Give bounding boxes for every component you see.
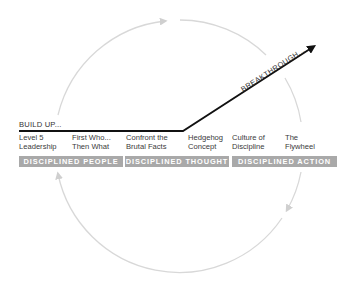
step-first-who: First Who... Then What xyxy=(72,133,111,151)
breakthrough-label: BREAKTHROUGH... xyxy=(239,46,306,94)
step-brutal-facts: Confront the Brutal Facts xyxy=(126,133,168,151)
flywheel-arc-top-left xyxy=(58,21,165,115)
flywheel-arc-top-right xyxy=(180,20,266,55)
flywheel-arc-right-lower xyxy=(287,172,301,210)
build-up-line xyxy=(19,47,313,131)
stage-disciplined-thought: DISCIPLINED THOUGHT xyxy=(125,156,229,167)
step-hedgehog: Hedgehog Concept xyxy=(188,133,223,151)
build-up-label: BUILD UP... xyxy=(19,120,62,129)
step-flywheel: The Flywheel xyxy=(285,133,315,151)
step-culture: Culture of Discipline xyxy=(232,133,265,151)
flywheel-arc-bottom xyxy=(58,174,282,272)
stage-disciplined-action: DISCIPLINED ACTION xyxy=(232,156,337,167)
flywheel-arc-right xyxy=(285,78,301,122)
stage-disciplined-people: DISCIPLINED PEOPLE xyxy=(19,156,123,167)
step-level5: Level 5 Leadership xyxy=(19,133,57,151)
